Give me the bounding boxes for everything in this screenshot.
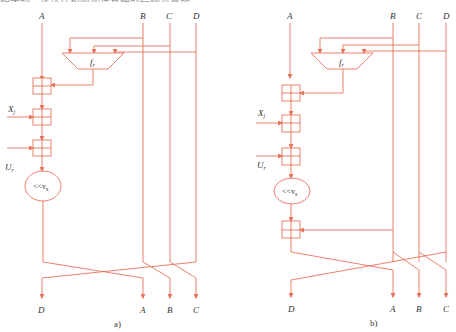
a-to-out-a xyxy=(43,201,143,298)
input-label-d: D xyxy=(192,11,200,21)
input-label-d: D xyxy=(442,11,450,21)
output-label-c: C xyxy=(193,305,200,315)
c-feed xyxy=(343,45,419,53)
output-label-a: A xyxy=(139,305,146,315)
c-to-out-c xyxy=(170,262,196,298)
output-label-a: A xyxy=(389,304,396,314)
input-label-b: B xyxy=(140,11,146,21)
output-label-d: D xyxy=(287,304,295,314)
diagram-b: A B C D fr Xj Ur <<vs xyxy=(256,11,450,328)
b-to-out-b xyxy=(393,252,419,297)
diagram-canvas: A B C D fr Xj xyxy=(0,0,456,332)
x-label: Xj xyxy=(257,108,266,119)
input-label-c: C xyxy=(416,11,423,21)
diagram-a: A B C D fr Xj xyxy=(5,11,200,329)
input-label-b: B xyxy=(390,11,396,21)
x-label: Xj xyxy=(7,104,16,115)
input-label-a: A xyxy=(286,11,293,21)
u-label: Ur xyxy=(257,160,267,171)
function-output xyxy=(51,69,93,85)
output-label-c: C xyxy=(443,304,450,314)
b-feed xyxy=(70,38,143,53)
output-label-b: B xyxy=(416,304,422,314)
c-to-out-c xyxy=(419,252,446,297)
input-label-c: C xyxy=(166,11,173,21)
u-label: Ur xyxy=(5,162,15,173)
d-to-out-d xyxy=(291,252,446,297)
output-label-d: D xyxy=(37,305,45,315)
input-label-a: A xyxy=(38,11,45,21)
d-feed xyxy=(115,52,196,53)
function-output xyxy=(300,69,343,93)
output-label-b: B xyxy=(167,305,173,315)
caption-a: a) xyxy=(114,319,121,329)
caption-b: b) xyxy=(370,318,378,328)
d-feed xyxy=(364,51,446,53)
a-to-out-a xyxy=(291,238,393,297)
d-to-out-d xyxy=(42,262,196,298)
